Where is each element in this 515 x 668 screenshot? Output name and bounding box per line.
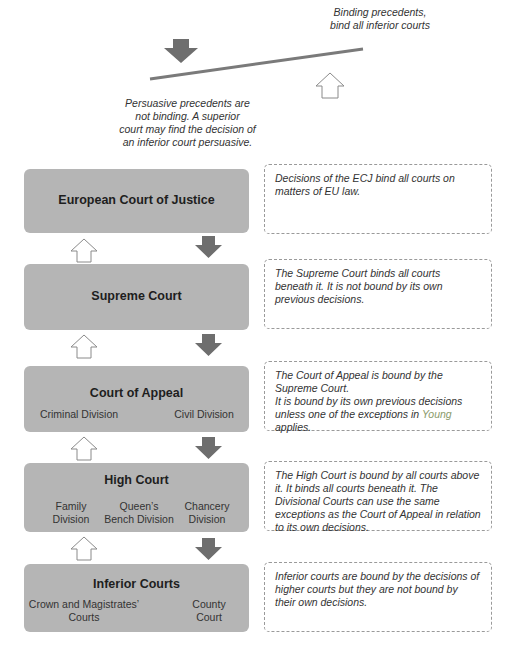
binding-arrow-icon xyxy=(195,236,222,560)
persuasive-arrow-icon xyxy=(71,239,97,560)
arrows-layer xyxy=(0,0,515,668)
